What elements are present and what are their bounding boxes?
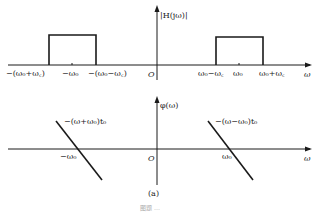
magnitude-plot: |H(jω)| −(ω₀+ω꜀) −ω₀ −(ω₀−ω꜀) O ω₀−ω꜀ ω₀… bbox=[6, 5, 312, 80]
origin-label: O bbox=[148, 154, 155, 163]
right-line-label: −(ω−ω₀)t₀ bbox=[215, 117, 257, 126]
right-passband bbox=[216, 37, 263, 65]
figure-caption: (a) bbox=[148, 189, 159, 198]
left-line-label: −(ω+ω₀)t₀ bbox=[64, 117, 106, 126]
tick-neg-inner: −(ω₀−ω꜀) bbox=[88, 69, 127, 78]
y-arrow-icon bbox=[155, 96, 160, 103]
omega-axis-label: ω bbox=[304, 154, 311, 163]
omega-axis-label: ω bbox=[304, 70, 311, 79]
origin-label: O bbox=[148, 70, 155, 79]
left-phase-line bbox=[56, 121, 102, 180]
x-arrow-icon bbox=[305, 63, 312, 68]
magnitude-label: |H(jω)| bbox=[160, 11, 188, 20]
y-arrow-icon bbox=[155, 5, 160, 12]
tick-neg-center: −ω₀ bbox=[62, 69, 78, 78]
right-zero-label: ω₀ bbox=[222, 152, 232, 161]
left-zero-label: −ω₀ bbox=[60, 152, 76, 161]
x-arrow-icon bbox=[305, 147, 312, 152]
filter-response-diagram: |H(jω)| −(ω₀+ω꜀) −ω₀ −(ω₀−ω꜀) O ω₀−ω꜀ ω₀… bbox=[0, 0, 322, 212]
phase-label: φ(ω) bbox=[160, 101, 178, 110]
tick-pos-center: ω₀ bbox=[233, 69, 243, 78]
right-phase-line bbox=[208, 121, 253, 180]
tick-neg-outer: −(ω₀+ω꜀) bbox=[6, 69, 45, 78]
phase-plot: φ(ω) −(ω+ω₀)t₀ −(ω−ω₀)t₀ −ω₀ ω₀ O ω bbox=[8, 96, 312, 185]
tick-pos-outer: ω₀+ω꜀ bbox=[259, 69, 285, 78]
left-passband bbox=[49, 35, 96, 65]
figure-footer: 图题 … bbox=[140, 204, 160, 212]
tick-pos-inner: ω₀−ω꜀ bbox=[198, 69, 224, 78]
